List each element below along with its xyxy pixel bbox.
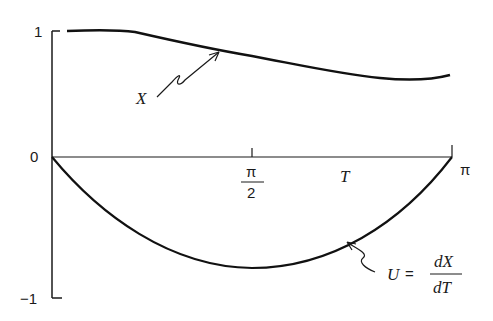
y-label-0: 0 [30,148,38,165]
x-annotation-label: X [135,89,147,108]
u-annotation-lhs: U [387,265,401,284]
chart: 1 0 −1 π 2 π T X U = dX dT [0,0,493,321]
x-axis-title: T [340,167,351,186]
x-annotation-arrow [157,52,219,97]
u-annotation-den: dT [433,278,453,297]
u-annotation-arrow [348,243,375,272]
series-x-curve [67,30,450,79]
x-label-half-pi-den: 2 [247,184,255,201]
x-label-half-pi-num: π [246,163,256,180]
u-annotation-eq: = [405,265,414,282]
y-label-neg1: −1 [20,290,37,307]
u-annotation-num: dX [434,252,454,271]
y-label-1: 1 [34,23,42,40]
x-label-pi: π [460,161,470,178]
